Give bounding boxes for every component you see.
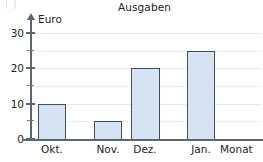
y-tick-30 xyxy=(26,32,35,34)
x-axis-label-okt: Okt. xyxy=(32,143,72,155)
y-axis-unit-label: Euro xyxy=(38,13,62,25)
y-axis-label-30: 30 xyxy=(0,27,24,39)
y-tick-5 xyxy=(27,120,34,121)
chart-title-text: Ausgaben xyxy=(118,1,171,13)
x-axis-label-nov: Nov. xyxy=(88,143,128,155)
x-axis-label-jan: Jan. xyxy=(181,143,221,155)
y-axis-label-0: 0 xyxy=(0,133,24,145)
bar-jan[interactable] xyxy=(187,51,215,140)
y-tick-25 xyxy=(27,50,34,51)
y-tick-15 xyxy=(27,85,34,86)
y-axis-line xyxy=(30,19,32,140)
y-tick-10 xyxy=(26,103,35,105)
gridline-30 xyxy=(31,33,261,34)
bar-nov[interactable] xyxy=(94,121,122,140)
y-tick-20 xyxy=(26,67,35,69)
y-axis-label-20: 20 xyxy=(0,62,24,74)
x-axis-label-dez: Dez. xyxy=(125,143,165,155)
bar-chart: Ausgaben Euro 30 20 10 0 Okt. Nov. Dez. … xyxy=(0,0,263,162)
y-axis-label-10: 10 xyxy=(0,98,24,110)
x-axis-unit-label: Monat xyxy=(220,143,263,155)
chart-title: Ausgaben xyxy=(0,1,263,13)
gridline-25 xyxy=(31,51,261,52)
bar-okt[interactable] xyxy=(38,104,66,140)
x-axis-line xyxy=(22,139,263,141)
bar-dez[interactable] xyxy=(131,68,160,140)
